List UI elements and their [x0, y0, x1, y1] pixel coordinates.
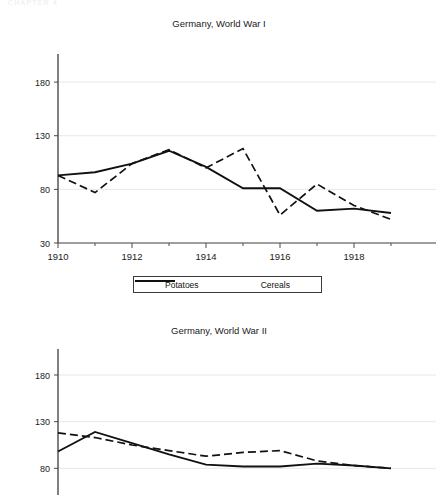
axis-label-x: 1918 [343, 251, 364, 262]
axis-label-x: 1910 [47, 251, 68, 262]
chart-canvas-2: 80130180 [0, 325, 438, 495]
data-series-potatoes [58, 433, 391, 468]
chart-panel-world-war-1: Germany, World War I 3080130180191019121… [0, 18, 438, 273]
axis-label-y: 180 [35, 371, 50, 381]
legend-item-cereals: Cereals [261, 280, 290, 290]
axis-label-y: 180 [35, 78, 50, 88]
chart-panel-world-war-2: Germany, World War II 80130180 [0, 325, 438, 495]
data-series-cereals [58, 432, 391, 468]
data-series-cereals [58, 151, 391, 213]
legend-label-cereals: Cereals [261, 280, 290, 290]
chart-legend: Potatoes Cereals [133, 276, 322, 293]
page-header: CHAPTER 4 [8, 0, 58, 6]
axis-label-y: 130 [35, 417, 50, 427]
axis-label-y: 130 [35, 131, 50, 141]
axis-label-y: 80 [40, 185, 50, 195]
legend-swatch-solid-icon [134, 277, 176, 285]
axis-label-x: 1914 [195, 251, 216, 262]
axis-label-x: 1916 [269, 251, 290, 262]
chart-canvas-1: 308013018019101912191419161918 [0, 18, 438, 273]
axis-label-y: 30 [40, 239, 50, 249]
axis-label-x: 1912 [121, 251, 142, 262]
axis-label-y: 80 [40, 464, 50, 474]
